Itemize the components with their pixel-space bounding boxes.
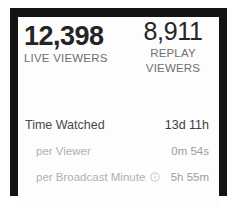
stat-live-viewers: 12,398 LIVE VIEWERS bbox=[24, 21, 132, 66]
info-icon[interactable] bbox=[150, 172, 160, 182]
row-time-watched-label: Time Watched bbox=[25, 118, 105, 132]
row-per-viewer-label: per Viewer bbox=[36, 145, 91, 157]
row-per-broadcast-minute-label-group: per Broadcast Minute bbox=[36, 171, 160, 183]
screenshot-frame: 12,398 LIVE VIEWERS 8,911 REPLAY VIEWERS… bbox=[0, 0, 237, 207]
frame-bezel-top bbox=[10, 8, 227, 17]
analytics-card: 12,398 LIVE VIEWERS 8,911 REPLAY VIEWERS… bbox=[18, 17, 219, 207]
row-per-viewer-value: 0m 54s bbox=[171, 145, 209, 157]
live-viewers-value: 12,398 bbox=[24, 21, 132, 51]
replay-viewers-label-line2: VIEWERS bbox=[130, 61, 216, 76]
live-viewers-label: LIVE VIEWERS bbox=[24, 51, 132, 66]
replay-viewers-label-line1: REPLAY bbox=[130, 46, 216, 61]
row-per-broadcast-minute-value: 5h 55m bbox=[171, 171, 209, 183]
stat-replay-viewers: 8,911 REPLAY VIEWERS bbox=[130, 17, 216, 76]
row-time-watched-value: 13d 11h bbox=[165, 118, 209, 132]
frame-bezel-right bbox=[219, 8, 227, 196]
row-time-watched: Time Watched 13d 11h bbox=[18, 112, 219, 138]
row-per-broadcast-minute-label: per Broadcast Minute bbox=[36, 171, 145, 183]
row-per-viewer-label-group: per Viewer bbox=[36, 145, 91, 157]
metrics-list: Time Watched 13d 11h per Viewer 0m 54s p… bbox=[18, 112, 219, 190]
row-per-viewer: per Viewer 0m 54s bbox=[18, 138, 219, 164]
headline-stats-row: 12,398 LIVE VIEWERS 8,911 REPLAY VIEWERS bbox=[18, 17, 219, 103]
row-per-broadcast-minute: per Broadcast Minute 5h 55m bbox=[18, 164, 219, 190]
replay-viewers-value: 8,911 bbox=[130, 17, 216, 46]
frame-bezel-left bbox=[10, 8, 18, 196]
